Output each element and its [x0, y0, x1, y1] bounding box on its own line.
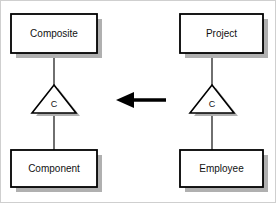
mapping-arrow-head: [116, 92, 134, 108]
project-box-label: Project: [206, 28, 237, 39]
diagram-svg: Composite C Component Project C Employee: [0, 0, 276, 203]
mapping-arrow[interactable]: [116, 92, 166, 108]
component-box-label: Component: [28, 163, 80, 174]
project-triangle-label: C: [209, 99, 216, 109]
employee-box-label: Employee: [199, 163, 244, 174]
composite-box-label: Composite: [30, 28, 78, 39]
diagram-canvas: Composite C Component Project C Employee: [0, 0, 276, 203]
composite-triangle-label: C: [51, 99, 58, 109]
